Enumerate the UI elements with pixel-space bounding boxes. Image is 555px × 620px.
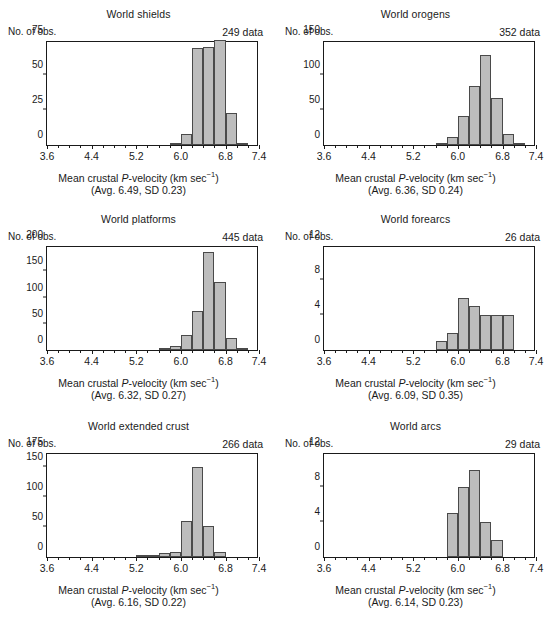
histogram-bar	[170, 143, 181, 145]
x-tick-mark	[369, 145, 370, 149]
panel-title: World orogens	[277, 8, 554, 20]
x-tick-mark-minor	[214, 145, 215, 148]
histogram-bar	[480, 522, 491, 557]
panel-world-orogens: World orogensNo. of obs.352 data05010015…	[277, 0, 554, 205]
x-tick-mark-minor	[436, 350, 437, 353]
x-tick-mark-minor	[214, 557, 215, 560]
y-tick-label: 8	[314, 264, 320, 275]
stats-label: (Avg. 6.09, SD 0.35)	[277, 389, 554, 401]
bar-series	[324, 42, 534, 145]
x-tick-mark-minor	[125, 350, 126, 353]
bar-series	[47, 42, 257, 145]
histogram-bar	[458, 116, 469, 145]
x-tick-mark	[226, 350, 227, 354]
histogram-bar	[458, 298, 469, 351]
bar-series	[324, 247, 534, 350]
x-tick-mark-minor	[525, 350, 526, 353]
x-tick-mark-minor	[335, 350, 336, 353]
y-tick-label: 200	[26, 229, 43, 240]
histogram-bar	[226, 338, 237, 350]
y-tick-label: 100	[303, 59, 320, 70]
histogram-bar	[503, 134, 514, 145]
histogram-bar	[226, 113, 237, 145]
x-tick-mark	[259, 350, 260, 354]
x-tick-mark-minor	[58, 557, 59, 560]
panel-world-platforms: World platformsNo. of obs.445 data050100…	[0, 205, 277, 410]
x-tick-mark	[503, 350, 504, 354]
y-tick-label: 8	[314, 471, 320, 482]
x-tick-label: 3.6	[40, 355, 55, 367]
x-tick-mark-minor	[514, 350, 515, 353]
x-tick-mark-minor	[380, 557, 381, 560]
plot-area: 0501001501753.64.45.26.06.87.4	[46, 453, 258, 558]
x-tick-mark-minor	[248, 557, 249, 560]
x-tick-mark-minor	[214, 350, 215, 353]
x-tick-mark-minor	[237, 557, 238, 560]
x-tick-mark-minor	[357, 350, 358, 353]
y-tick-label: 12	[309, 229, 320, 240]
y-tick-label: 150	[303, 24, 320, 35]
y-tick-label: 0	[314, 129, 320, 140]
x-tick-label: 3.6	[317, 150, 332, 162]
histogram-bar	[181, 335, 192, 350]
x-tick-mark-minor	[125, 145, 126, 148]
x-tick-label: 6.0	[174, 355, 189, 367]
x-tick-mark	[92, 145, 93, 149]
data-count-label: 29 data	[505, 438, 540, 450]
x-tick-mark-minor	[335, 145, 336, 148]
x-axis-label: Mean crustal P-velocity (km sec−1)	[277, 375, 554, 389]
x-tick-mark	[324, 145, 325, 149]
y-tick-label: 50	[32, 59, 43, 70]
histogram-bar	[237, 143, 248, 145]
x-tick-mark-minor	[69, 350, 70, 353]
y-tick-label: 0	[37, 334, 43, 345]
histogram-bar	[136, 555, 147, 557]
histogram-bar	[447, 137, 458, 145]
x-tick-mark-minor	[80, 557, 81, 560]
x-tick-mark	[503, 557, 504, 561]
x-tick-mark-minor	[69, 145, 70, 148]
x-axis-label: Mean crustal P-velocity (km sec−1)	[277, 582, 554, 596]
x-tick-mark-minor	[525, 557, 526, 560]
x-tick-label: 7.4	[252, 355, 267, 367]
x-tick-mark-minor	[114, 145, 115, 148]
x-tick-label: 6.0	[174, 562, 189, 574]
histogram-bar	[181, 521, 192, 557]
x-tick-label: 6.0	[451, 150, 466, 162]
x-tick-mark-minor	[424, 557, 425, 560]
histogram-bar	[447, 333, 458, 351]
bar-series	[47, 247, 257, 350]
histogram-bar	[181, 134, 192, 145]
x-tick-mark-minor	[402, 145, 403, 148]
x-tick-label: 6.0	[451, 562, 466, 574]
x-tick-mark-minor	[159, 557, 160, 560]
x-tick-mark	[259, 145, 260, 149]
x-tick-mark-minor	[447, 350, 448, 353]
x-tick-mark-minor	[80, 350, 81, 353]
x-tick-mark-minor	[357, 557, 358, 560]
histogram-bar	[436, 341, 447, 350]
x-tick-mark-minor	[357, 145, 358, 148]
x-tick-mark-minor	[159, 145, 160, 148]
x-tick-mark-minor	[346, 145, 347, 148]
x-axis-label: Mean crustal P-velocity (km sec−1)	[0, 170, 277, 184]
x-tick-mark-minor	[469, 350, 470, 353]
x-tick-label: 7.4	[252, 562, 267, 574]
x-tick-mark	[226, 145, 227, 149]
x-tick-mark	[369, 557, 370, 561]
x-tick-mark	[181, 145, 182, 149]
plot-area: 0501001502003.64.45.26.06.87.4	[46, 246, 258, 351]
x-tick-mark-minor	[192, 557, 193, 560]
x-tick-mark	[136, 145, 137, 149]
x-tick-label: 5.2	[406, 562, 421, 574]
x-tick-mark-minor	[203, 145, 204, 148]
histogram-bar	[491, 315, 502, 350]
x-tick-label: 3.6	[40, 150, 55, 162]
y-tick-label: 25	[32, 94, 43, 105]
x-tick-label: 4.4	[84, 150, 99, 162]
y-tick-label: 50	[32, 307, 43, 318]
x-tick-mark	[458, 557, 459, 561]
x-tick-mark-minor	[103, 350, 104, 353]
x-tick-mark-minor	[402, 350, 403, 353]
histogram-bar	[203, 526, 214, 557]
